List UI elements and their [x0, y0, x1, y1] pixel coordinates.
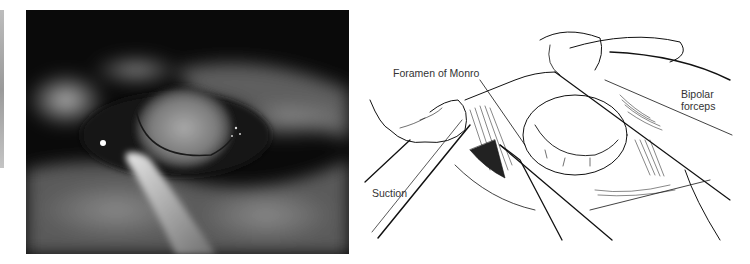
label-bipolar-forceps: Bipolar forceps [681, 88, 715, 112]
surgical-illustration [350, 0, 750, 264]
adjacent-panel-edge [0, 10, 4, 168]
label-suction: Suction [372, 187, 407, 199]
label-foramen-of-monro: Foramen of Monro [393, 67, 479, 79]
label-bipolar-line1: Bipolar [681, 88, 715, 100]
label-bipolar-line2: forceps [681, 100, 715, 112]
endoscopic-photo [26, 10, 349, 254]
